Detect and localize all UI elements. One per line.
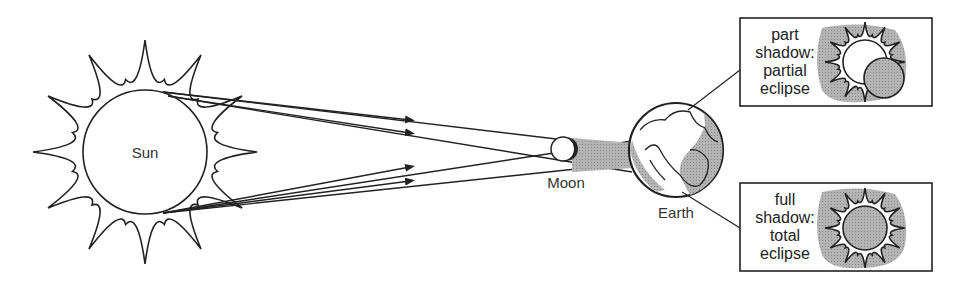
svg-text:shadow:: shadow: [755, 209, 815, 226]
solar-eclipse-diagram: Sun Moon Earth [0, 0, 967, 292]
total-eclipse-box: full shadow: total eclipse [740, 183, 932, 271]
moon [551, 137, 578, 161]
svg-text:part: part [771, 26, 799, 43]
svg-text:shadow:: shadow: [755, 44, 815, 61]
earth [629, 103, 723, 197]
earth-label: Earth [658, 204, 694, 221]
partial-eclipse-box: part shadow: partial eclipse [740, 18, 932, 106]
sun-label: Sun [132, 144, 159, 161]
moon-label: Moon [547, 174, 585, 191]
svg-text:partial: partial [763, 62, 807, 79]
svg-text:eclipse: eclipse [760, 80, 810, 97]
svg-text:full: full [775, 191, 795, 208]
svg-text:total: total [770, 227, 800, 244]
umbra-shadow [572, 138, 632, 172]
svg-text:eclipse: eclipse [760, 245, 810, 262]
